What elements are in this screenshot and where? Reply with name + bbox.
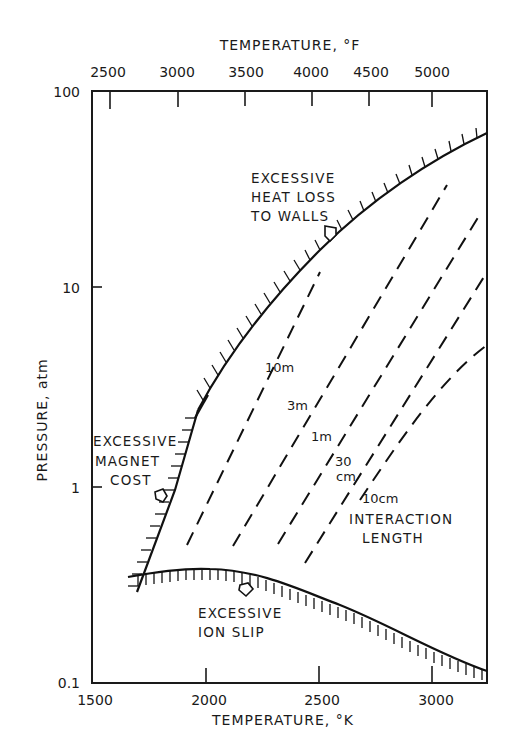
label-3m: 3m [287, 398, 308, 413]
svg-text:2500: 2500 [304, 692, 340, 708]
heat-loss-boundary [198, 133, 487, 410]
label-cm: cm [336, 469, 356, 484]
label-10m: 10m [265, 360, 294, 375]
ion-slip-arrow-icon [239, 583, 253, 596]
label-10cm: 10cm [362, 491, 398, 506]
magnet-label-1: EXCESSIVE [93, 433, 177, 449]
ion-slip-boundary [128, 569, 487, 671]
y-tick-labels: 100 10 1 0.1 [53, 84, 80, 691]
x-tick-labels: 1500 2000 2500 3000 [77, 692, 454, 708]
svg-text:3000: 3000 [159, 64, 195, 80]
svg-text:1: 1 [71, 480, 80, 496]
svg-text:1500: 1500 [77, 692, 113, 708]
line-10cm [360, 345, 487, 500]
svg-text:5000: 5000 [414, 64, 450, 80]
svg-text:4000: 4000 [293, 64, 329, 80]
ion-slip-hatching [138, 569, 482, 680]
x2-tick-labels: 2500 3000 3500 4000 4500 5000 [90, 64, 450, 80]
svg-text:0.1: 0.1 [58, 675, 80, 691]
magnet-arrow-icon [155, 489, 167, 502]
svg-text:3000: 3000 [418, 692, 454, 708]
svg-text:10: 10 [62, 280, 80, 296]
heat-loss-label-2: HEAT LOSS [251, 189, 336, 205]
label-30: 30 [335, 454, 352, 469]
magnet-label-3: COST [110, 472, 152, 488]
heat-loss-label-3: TO WALLS [250, 208, 329, 224]
label-1m: 1m [311, 429, 332, 444]
svg-text:100: 100 [53, 84, 80, 100]
svg-text:2000: 2000 [191, 692, 227, 708]
y-axis-title: PRESSURE, atm [34, 358, 50, 481]
x-ticks [206, 666, 432, 683]
svg-text:2500: 2500 [90, 64, 126, 80]
ion-slip-label-1: EXCESSIVE [198, 605, 282, 621]
magnet-label-2: MAGNET [95, 453, 160, 469]
ion-slip-label-2: ION SLIP [198, 624, 265, 640]
svg-text:4500: 4500 [353, 64, 389, 80]
heat-loss-label-1: EXCESSIVE [251, 170, 335, 186]
interaction-label-2: LENGTH [362, 530, 424, 546]
heat-loss-arrow-icon [325, 226, 336, 241]
x2-ticks [110, 91, 432, 109]
x2-axis-title: TEMPERATURE, °F [219, 37, 361, 53]
interaction-label-1: INTERACTION [349, 511, 453, 527]
heat-loss-hatching [197, 128, 477, 400]
chart: TEMPERATURE, °F 2500 3000 3500 4000 4500… [0, 0, 518, 755]
x-axis-title: TEMPERATURE, °K [211, 712, 354, 728]
svg-text:3500: 3500 [228, 64, 264, 80]
